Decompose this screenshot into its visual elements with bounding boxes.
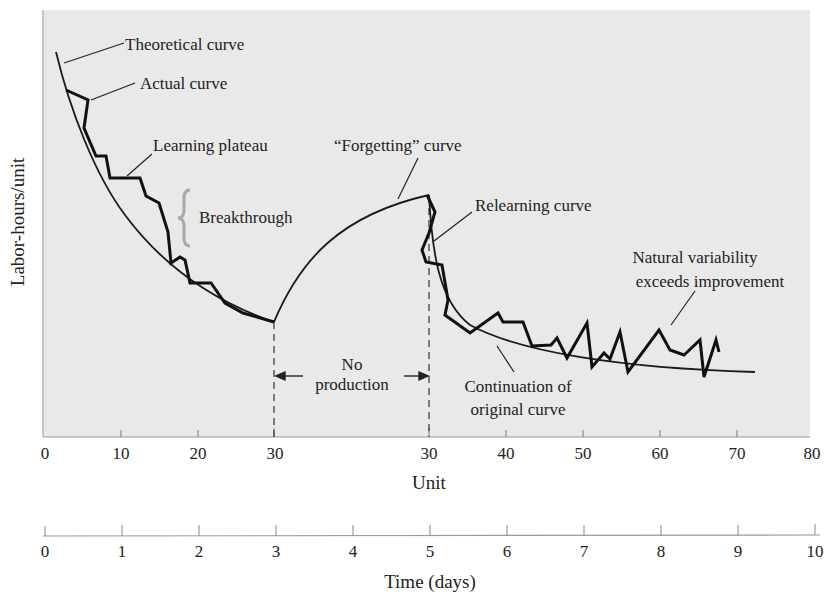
- label-no-production-1: No: [342, 355, 363, 374]
- label-theoretical-curve: Theoretical curve: [125, 35, 244, 54]
- days-axis-ticks: [45, 524, 815, 536]
- days-tick-8: 8: [657, 542, 666, 561]
- days-tick-4: 4: [349, 542, 358, 561]
- days-tick-5: 5: [426, 542, 435, 561]
- label-breakthrough: Breakthrough: [199, 208, 293, 227]
- unit-tick-10: 10: [113, 444, 130, 463]
- label-no-production-2: production: [315, 375, 389, 394]
- unit-tick-20: 20: [190, 444, 207, 463]
- days-tick-0: 0: [41, 542, 50, 561]
- unit-tick-60: 60: [652, 444, 669, 463]
- days-tick-1: 1: [118, 542, 127, 561]
- x-axis-label: Unit: [412, 472, 447, 493]
- unit-tick-30a: 30: [267, 444, 284, 463]
- days-axis: [43, 535, 820, 536]
- learning-curve-chart: 0 10 20 30 30 40 50 60 70 80 Unit 0 1 2 …: [0, 0, 825, 595]
- days-tick-2: 2: [195, 542, 204, 561]
- label-learning-plateau: Learning plateau: [153, 136, 268, 155]
- days-tick-3: 3: [272, 542, 281, 561]
- unit-tick-50: 50: [575, 444, 592, 463]
- days-tick-10: 10: [807, 542, 824, 561]
- unit-tick-labels: 0 10 20 30 30 40 50 60 70 80: [41, 444, 821, 463]
- days-tick-6: 6: [503, 542, 512, 561]
- unit-tick-80: 80: [804, 444, 821, 463]
- label-relearning-curve: Relearning curve: [475, 196, 592, 215]
- label-natural-variability-top: Natural variability: [632, 248, 758, 267]
- days-tick-7: 7: [580, 542, 589, 561]
- unit-tick-40: 40: [498, 444, 515, 463]
- days-tick-labels: 0 1 2 3 4 5 6 7 8 9 10: [41, 542, 824, 561]
- x2-axis-label: Time (days): [384, 571, 476, 593]
- label-forgetting-curve: “Forgetting” curve: [334, 136, 462, 155]
- label-natural-variability-1: exceeds improvement: [636, 272, 785, 291]
- unit-tick-30b: 30: [421, 444, 438, 463]
- label-continuation-1: Continuation of: [464, 377, 572, 396]
- y-axis-label: Labor-hours/unit: [7, 157, 28, 286]
- label-continuation-2: original curve: [471, 400, 566, 419]
- label-actual-curve: Actual curve: [140, 74, 227, 93]
- unit-tick-70: 70: [729, 444, 746, 463]
- unit-tick-0: 0: [41, 444, 50, 463]
- days-tick-9: 9: [734, 542, 743, 561]
